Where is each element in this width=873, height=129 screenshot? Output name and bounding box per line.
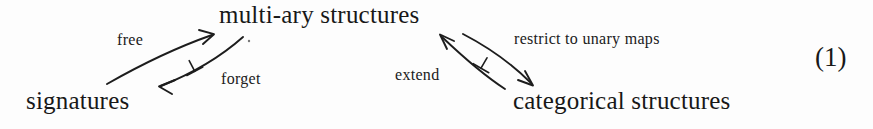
adjunction-diagram: multi-ary structures signatures categori… xyxy=(0,0,873,129)
adjunction-symbol-left xyxy=(181,56,203,75)
diagram-arrows xyxy=(0,0,873,129)
node-multi-ary-structures: multi-ary structures xyxy=(219,2,419,28)
arrow-label-extend: extend xyxy=(395,66,439,83)
arrow-extend xyxy=(440,35,505,90)
scan-speck xyxy=(248,40,250,42)
arrow-label-free: free xyxy=(117,31,143,48)
adjunction-symbol-right xyxy=(473,53,495,72)
arrow-label-restrict-to-unary-maps: restrict to unary maps xyxy=(514,30,660,47)
node-signatures: signatures xyxy=(26,88,129,114)
arrow-label-forget: forget xyxy=(221,70,261,87)
node-categorical-structures: categorical structures xyxy=(513,88,731,114)
equation-number: (1) xyxy=(815,43,846,71)
